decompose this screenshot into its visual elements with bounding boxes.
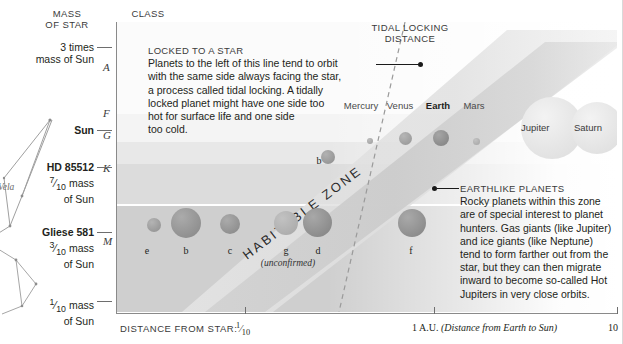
callout-earthlike-line-6: inward to become so-called Hot: [460, 274, 607, 286]
callout-locked-line-3: locked planet might have one side too: [148, 97, 324, 109]
class-axis-header-line1: CLASS: [131, 8, 164, 19]
planet-gliese-e: [147, 218, 161, 232]
callout-locked-leader-line: [376, 64, 420, 65]
callout-earthlike-line-4: tend to form farther out from the: [460, 248, 608, 260]
planet-gliese-g: [274, 211, 298, 235]
planet-label-gliese-f: f: [403, 245, 419, 256]
x-label-tenth-au: 1⁄10: [236, 321, 250, 337]
x-axis-caption: DISTANCE FROM STAR:: [120, 323, 237, 334]
planet-label-jupiter: Jupiter: [521, 122, 550, 133]
planet-venus: [399, 132, 412, 145]
x-label-one-au: 1 A.U. (Distance from Earth to Sun): [412, 322, 557, 333]
mass-axis-header-line1: MASS: [53, 8, 82, 19]
planet-gliese-f: [398, 209, 426, 237]
tidal-locking-distance-label: TIDAL LOCKING DISTANCE: [352, 22, 468, 44]
planet-label-gliese-b: b: [178, 245, 194, 256]
class-letter-a: A: [103, 61, 110, 73]
planet-note-gliese-g-unconfirmed: (unconfirmed): [242, 258, 334, 268]
planet-label-gliese-d: d: [310, 245, 326, 256]
callout-earthlike-line-7: Jupiters in very close orbits.: [460, 288, 590, 300]
x-label-one-au-value: 1 A.U.: [412, 322, 438, 333]
planet-label-earth: Earth: [418, 100, 458, 111]
callout-earthlike-body: Rocky planets within this zone are of sp…: [460, 195, 620, 301]
callout-earthlike-line-3: and ice giants (like Neptune): [460, 235, 593, 247]
y-tick-hd85512: [97, 167, 112, 168]
x-label-ten-au: 10: [608, 322, 618, 333]
y-tick-sun: [97, 130, 112, 131]
planet-label-hd85512-b: b: [311, 155, 327, 166]
class-letter-k: K: [103, 162, 110, 174]
constellation-label: Vela: [0, 182, 14, 192]
tidal-label-line1: TIDAL LOCKING: [371, 22, 448, 33]
callout-earthlike-line-1: are of special interest to planet: [460, 208, 603, 220]
y-tick-tenth-sun: [97, 301, 112, 302]
callout-locked-line-5: too cold.: [148, 123, 188, 135]
y-tick-gliese581: [97, 232, 112, 233]
y-label-3x-sun-line2: mass of Sun: [36, 53, 94, 65]
planet-label-gliese-g: g: [278, 245, 294, 256]
planet-gliese-d: [303, 208, 332, 237]
planet-gliese-c: [220, 214, 240, 234]
callout-earthlike-leader-dot: [432, 186, 437, 191]
x-axis-line: [116, 313, 618, 314]
y-label-3x-sun-line1: 3 times: [60, 41, 94, 53]
constellation-second-art: [0, 238, 70, 318]
planet-label-gliese-c: c: [222, 245, 238, 256]
diagram-canvas: MASS OF STAR CLASS OF STAR: [0, 0, 623, 344]
callout-earthlike-line-2: hunters. Gas giants (like Jupiter): [460, 222, 611, 234]
mass-axis-header-line2: OF STAR: [45, 19, 88, 30]
x-label-one-au-note: (Distance from Earth to Sun): [441, 322, 557, 333]
planet-mars: [473, 138, 480, 145]
callout-locked-line-0: Planets to the left of this line tend to…: [148, 57, 338, 69]
callout-earthlike-planets: EARTHLIKE PLANETS Rocky planets within t…: [460, 182, 620, 301]
planet-gliese-b: [171, 208, 201, 238]
y-tick-3x-sun: [97, 47, 112, 48]
planet-mercury: [367, 138, 373, 144]
callout-earthlike-leader-line: [437, 188, 459, 189]
x-tick-tenth-au: [245, 307, 246, 314]
callout-locked-line-1: with the same side always facing the sta…: [148, 70, 341, 82]
planet-label-gliese-e: e: [139, 245, 155, 256]
planet-earth: [433, 130, 449, 146]
callout-locked-line-4: hot for surface life and one side: [148, 110, 295, 122]
callout-locked-line-2: a process called tidal locking. A tidall…: [148, 84, 323, 96]
callout-earthlike-heading: EARTHLIKE PLANETS: [460, 182, 620, 195]
x-tick-one-au: [434, 307, 435, 314]
planet-label-venus: Venus: [379, 100, 421, 111]
y-axis-line: [116, 22, 117, 314]
callout-locked-to-a-star: LOCKED TO A STAR Planets to the left of …: [148, 44, 373, 136]
planet-label-saturn: Saturn: [574, 122, 602, 133]
class-letter-m: M: [103, 235, 112, 247]
callout-locked-body: Planets to the left of this line tend to…: [148, 57, 373, 136]
x-tick-ten-au: [617, 307, 618, 314]
tidal-label-line2: DISTANCE: [385, 33, 436, 44]
class-letter-f: F: [103, 107, 110, 119]
callout-locked-heading: LOCKED TO A STAR: [148, 44, 373, 57]
callout-earthlike-line-5: star, but they can then migrate: [460, 261, 601, 273]
constellation-vela-art: [0, 118, 80, 243]
callout-earthlike-line-0: Rocky planets within this zone: [460, 195, 601, 207]
callout-locked-leader-dot: [418, 62, 423, 67]
planet-label-mars: Mars: [455, 100, 493, 111]
y-label-3x-sun: 3 times mass of Sun: [10, 41, 94, 65]
mass-axis-header: MASS OF STAR: [28, 8, 106, 30]
